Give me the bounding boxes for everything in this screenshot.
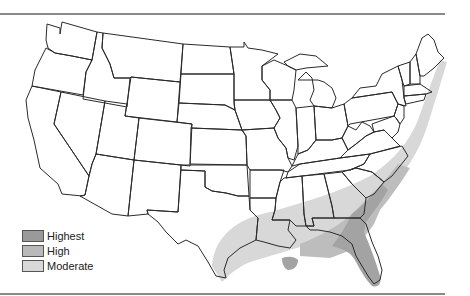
state-arkansas	[250, 170, 284, 198]
legend-label: High	[47, 245, 70, 257]
state-tennessee	[286, 154, 370, 178]
state-vermont	[398, 62, 410, 86]
state-arizona	[80, 154, 134, 216]
state-indiana	[296, 106, 316, 154]
state-new-york	[352, 66, 406, 106]
state-wisconsin	[262, 60, 296, 100]
state-illinois	[270, 100, 298, 160]
zone-highest-la	[282, 257, 298, 270]
legend-swatch-moderate	[22, 260, 44, 272]
legend-item-high: High	[22, 243, 93, 258]
state-missouri	[242, 128, 292, 172]
state-north-dakota	[181, 44, 234, 74]
state-connecticut-rhode-island	[404, 94, 426, 104]
state-wyoming	[125, 77, 180, 122]
state-nebraska	[177, 103, 242, 130]
state-new-mexico	[128, 160, 181, 216]
state-minnesota	[230, 42, 278, 100]
state-kentucky	[292, 138, 348, 166]
bottom-divider	[0, 293, 445, 295]
legend-swatch-highest	[22, 230, 44, 242]
legend-swatch-high	[22, 245, 44, 257]
state-kansas	[190, 128, 247, 165]
state-idaho	[83, 32, 130, 107]
state-ohio	[314, 104, 348, 140]
legend-item-moderate: Moderate	[22, 258, 93, 273]
state-nevada	[54, 92, 105, 176]
state-california	[26, 86, 89, 196]
state-montana	[102, 33, 183, 82]
legend-item-highest: Highest	[22, 228, 93, 243]
map-legend: Highest High Moderate	[22, 228, 93, 273]
legend-label: Highest	[47, 230, 84, 242]
legend-label: Moderate	[47, 260, 93, 272]
state-washington	[46, 22, 97, 60]
state-west-virginia	[342, 122, 374, 150]
state-new-jersey	[394, 104, 404, 124]
state-utah	[96, 101, 139, 160]
state-colorado	[134, 118, 192, 166]
